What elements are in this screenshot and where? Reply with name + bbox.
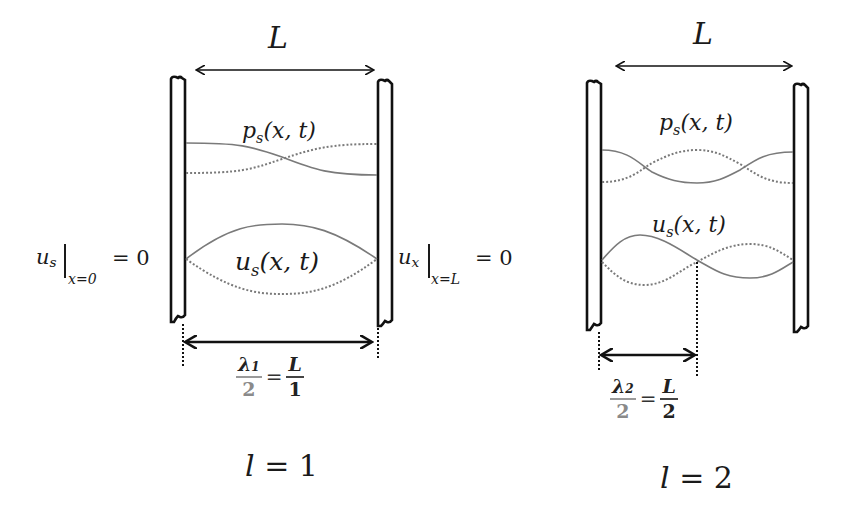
- mode-label-l2: l = 2: [660, 460, 733, 495]
- right-boundary-condition: ux: [398, 245, 419, 270]
- bc-subscript: x: [412, 254, 420, 270]
- pressure-label-l1: ps(x, t): [242, 118, 316, 146]
- bc-rhs: = 0: [112, 246, 150, 270]
- equals-sign: =: [266, 365, 283, 389]
- half-wavelength-equation-l2: λ2 2 = L 2: [610, 377, 678, 421]
- pressure-curve-solid: [602, 150, 793, 183]
- lambda-subscript: 2: [625, 382, 633, 396]
- mode-symbol: l: [660, 460, 670, 495]
- lambda-symbol: λ: [238, 353, 251, 375]
- left-boundary-condition: us: [36, 245, 57, 270]
- panel-l1: [171, 70, 392, 366]
- equals-sign: =: [640, 387, 657, 411]
- pressure-symbol: p: [242, 118, 256, 143]
- pressure-curve-dotted: [186, 144, 377, 173]
- pressure-args: (x, t): [263, 118, 315, 143]
- displacement-subscript: s: [666, 224, 673, 240]
- fraction-denominator: 1: [289, 378, 302, 399]
- fraction-denominator: 2: [616, 400, 629, 421]
- pressure-args: (x, t): [680, 110, 732, 135]
- fraction-denominator: 2: [242, 378, 255, 399]
- displacement-label-l2: us(x, t): [652, 212, 726, 240]
- right-wall: [794, 84, 808, 332]
- bc-symbol: u: [398, 245, 412, 269]
- eval-bar-right: [428, 244, 430, 278]
- fraction-numerator: L: [660, 377, 677, 400]
- bc-subscript: s: [50, 254, 57, 270]
- pressure-curve-dotted: [602, 150, 793, 183]
- eval-bar-left: [64, 244, 66, 278]
- mode-label-l1: l = 1: [245, 448, 318, 483]
- right-wall: [378, 80, 392, 326]
- bc-eval-point: x=L: [431, 271, 460, 287]
- bc-eval-point: x=0: [68, 271, 97, 287]
- length-label-l2: L: [693, 16, 713, 51]
- mode-symbol: l: [245, 448, 255, 483]
- half-wavelength-equation-l1: λ1 2 = L 1: [236, 355, 304, 399]
- mode-value: 1: [299, 448, 318, 483]
- left-wall: [171, 77, 185, 322]
- displacement-label-l1: us(x, t): [235, 247, 319, 280]
- displacement-args: (x, t): [674, 212, 726, 237]
- bc-rhs: = 0: [475, 246, 513, 270]
- length-label-l1: L: [268, 20, 288, 55]
- pressure-symbol: p: [659, 110, 673, 135]
- fraction-denominator: 2: [663, 400, 676, 421]
- pressure-label-l2: ps(x, t): [659, 110, 733, 138]
- lambda-subscript: 1: [251, 360, 259, 374]
- fraction-numerator: L: [286, 355, 303, 378]
- left-wall: [587, 81, 601, 330]
- displacement-args: (x, t): [259, 247, 319, 276]
- displacement-symbol: u: [235, 247, 251, 276]
- displacement-symbol: u: [652, 212, 666, 237]
- lambda-symbol: λ: [612, 375, 625, 397]
- mode-value: 2: [714, 460, 733, 495]
- bc-symbol: u: [36, 245, 50, 269]
